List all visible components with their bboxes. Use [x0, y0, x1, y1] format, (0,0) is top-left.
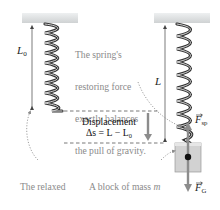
center-of-mass-dot	[185, 154, 191, 160]
pointer-relaxed-caption	[27, 112, 38, 160]
left-spring	[45, 24, 62, 111]
l-label: L	[155, 76, 161, 87]
balance-caption-line1: The spring's	[75, 50, 146, 61]
balance-caption: The spring's restoring force exactly bal…	[75, 29, 146, 177]
displacement-label: Displacement Δs = L − L0	[82, 116, 136, 138]
block-caption-line1: A block of mass m	[89, 182, 163, 193]
block-caption: A block of mass m stretches the spring t…	[89, 161, 163, 210]
spring-force-label: Fsp	[195, 115, 207, 126]
balance-caption-line4: the pull of gravity.	[75, 146, 146, 157]
left-ceiling	[22, 13, 78, 23]
relaxed-caption-line1: The relaxed	[20, 182, 66, 193]
balance-caption-line2: restoring force	[75, 82, 146, 93]
pointer-block-caption	[161, 151, 174, 160]
displacement-title: Displacement	[82, 116, 136, 127]
right-ceiling	[154, 13, 210, 23]
gravity-force-arrowhead	[184, 184, 192, 192]
displacement-equation: Δs = L − L0	[82, 127, 136, 138]
spring-diagram: L0 L The spring's restoring force exactl…	[0, 0, 220, 210]
relaxed-spring-caption: The relaxed spring has length L0.	[20, 161, 66, 210]
l0-label: L0	[17, 45, 27, 56]
gravity-force-label: FG	[195, 183, 206, 194]
